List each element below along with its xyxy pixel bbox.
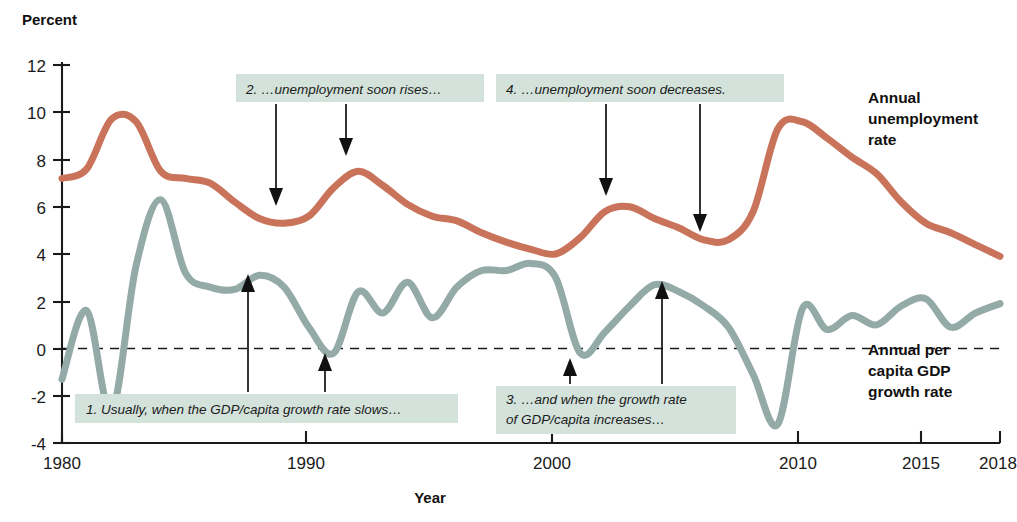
x-tick-label-2000: 2000 bbox=[533, 454, 571, 473]
y-tick-label-4: 4 bbox=[37, 246, 46, 265]
y-tick-label-0: 0 bbox=[37, 341, 46, 360]
series-label-unemployment: Annual unemployment rate bbox=[868, 89, 978, 148]
y-tick-label-2: 2 bbox=[37, 294, 46, 313]
x-tick-label-2018: 2018 bbox=[979, 454, 1017, 473]
unemployment-label-line3: rate bbox=[868, 131, 897, 148]
chart-figure: 12 10 8 6 4 2 0 -2 -4 1980 1990 2000 201… bbox=[0, 0, 1017, 522]
gdp-label-line3: growth rate bbox=[868, 383, 953, 400]
axis-group bbox=[53, 62, 1000, 443]
x-tick-label-2015: 2015 bbox=[902, 454, 940, 473]
gdp-label-line2: capita GDP bbox=[868, 362, 951, 379]
x-tick-labels: 1980 1990 2000 2010 2015 2018 bbox=[43, 454, 1017, 473]
y-tick-label-6: 6 bbox=[37, 199, 46, 218]
callout-2-arrow-b-head bbox=[339, 138, 353, 156]
unemployment-label-line2: unemployment bbox=[868, 110, 978, 127]
callout-1-text: 1. Usually, when the GDP/capita growth r… bbox=[86, 402, 402, 417]
chart-canvas: 12 10 8 6 4 2 0 -2 -4 1980 1990 2000 201… bbox=[0, 0, 1017, 522]
callout-4-arrow-b-head bbox=[693, 214, 707, 232]
x-tick-label-1980: 1980 bbox=[43, 454, 81, 473]
callout-3-arrow-a-head bbox=[563, 358, 577, 376]
callout-2-arrow-a-head bbox=[269, 188, 283, 206]
y-axis-title: Percent bbox=[22, 11, 77, 28]
gdp-label-line1: Annual per bbox=[868, 341, 949, 358]
unemployment-rate-line bbox=[62, 114, 1000, 256]
callout-2: 2. …unemployment soon rises… bbox=[236, 74, 484, 206]
y-tick-label-10: 10 bbox=[27, 104, 46, 123]
x-tick-label-2010: 2010 bbox=[779, 454, 817, 473]
callout-3-text-line1: 3. …and when the growth rate bbox=[506, 392, 687, 407]
y-tick-label-neg4: -4 bbox=[31, 435, 46, 454]
callout-4-arrow-a-head bbox=[599, 178, 613, 196]
y-tick-labels: 12 10 8 6 4 2 0 -2 -4 bbox=[27, 57, 46, 454]
callout-2-text: 2. …unemployment soon rises… bbox=[245, 82, 442, 97]
unemployment-label-line1: Annual bbox=[868, 89, 921, 106]
x-axis-title: Year bbox=[414, 489, 446, 506]
callout-4-text: 4. …unemployment soon decreases. bbox=[506, 82, 726, 97]
x-tick-label-1990: 1990 bbox=[287, 454, 325, 473]
data-series-group bbox=[62, 114, 1000, 426]
y-tick-label-neg2: -2 bbox=[31, 388, 46, 407]
series-label-gdp: Annual per capita GDP growth rate bbox=[868, 341, 953, 400]
y-tick-label-8: 8 bbox=[37, 152, 46, 171]
callout-3-text-line2: of GDP/capita increases… bbox=[506, 412, 665, 427]
y-tick-label-12: 12 bbox=[27, 57, 46, 76]
